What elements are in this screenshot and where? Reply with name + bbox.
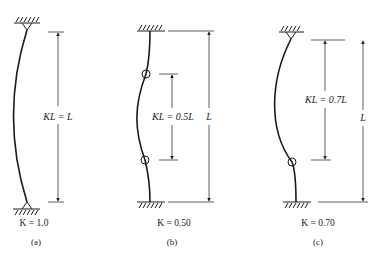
- fixed-support-bottom-icon: [283, 202, 311, 208]
- l-label-b: L: [205, 111, 212, 122]
- caption-c: (c): [313, 237, 323, 247]
- panel-c: KL = 0.7L L K = 0.70 (c): [275, 26, 368, 247]
- pinned-support-bottom-icon: [13, 202, 40, 215]
- k-value-c: K = 0.70: [301, 218, 335, 228]
- kl-label-a: KL = L: [42, 111, 73, 122]
- pinned-support-top-icon: [279, 26, 304, 39]
- buckled-column: [137, 31, 150, 202]
- k-value-a: K = 1.0: [20, 218, 49, 228]
- fixed-support-top-icon: [137, 25, 165, 31]
- kl-label-c: KL = 0.7L: [304, 94, 347, 105]
- k-value-b: K = 0.50: [157, 218, 191, 228]
- panel-b: KL = 0.5L L K = 0.50 (b): [137, 25, 214, 247]
- fixed-support-bottom-icon: [137, 202, 165, 208]
- panel-a: KL = L K = 1.0 (a): [13, 17, 73, 247]
- buckled-column: [14, 30, 28, 202]
- pinned-support-top-icon: [14, 17, 40, 30]
- buckled-column: [275, 39, 296, 202]
- caption-b: (b): [167, 237, 178, 247]
- l-label-c: L: [359, 112, 366, 123]
- kl-label-b: KL = 0.5L: [151, 111, 194, 122]
- effective-length-diagram: KL = L K = 1.0 (a): [0, 0, 379, 262]
- caption-a: (a): [31, 237, 41, 247]
